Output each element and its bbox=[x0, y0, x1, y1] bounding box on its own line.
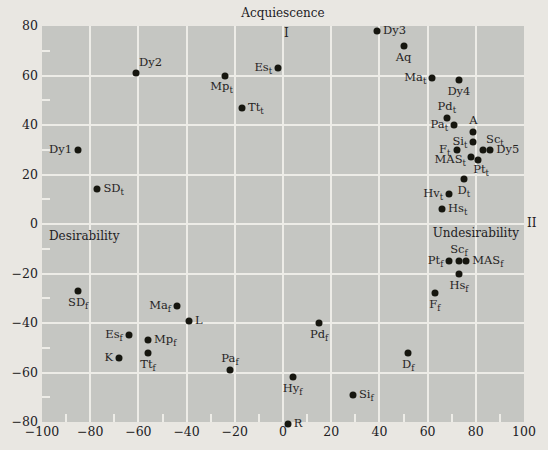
data-point bbox=[116, 354, 123, 361]
data-point bbox=[173, 302, 180, 309]
data-point-label: Est bbox=[254, 62, 272, 74]
y-tick-label: −20 bbox=[12, 267, 38, 280]
data-point bbox=[467, 154, 474, 161]
data-point bbox=[75, 287, 82, 294]
x-tick-label: −60 bbox=[125, 426, 151, 439]
data-point-label-subscript: f bbox=[173, 339, 176, 349]
data-point-label-subscript: t bbox=[453, 104, 456, 114]
data-point-label: Mat bbox=[404, 72, 426, 84]
data-point-label-subscript: f bbox=[325, 333, 328, 343]
y-tick-label: −60 bbox=[12, 366, 38, 379]
data-point-label-subscript: f bbox=[120, 334, 123, 344]
data-point bbox=[239, 104, 246, 111]
x-minor-tick bbox=[162, 414, 164, 422]
data-point-label-subscript: f bbox=[500, 259, 503, 269]
data-point-label: Ff bbox=[429, 299, 440, 311]
data-point-label: Pat bbox=[431, 119, 449, 131]
gridline-horizontal bbox=[42, 372, 524, 374]
data-point bbox=[186, 317, 193, 324]
data-point-label: Ttt bbox=[248, 102, 264, 114]
data-point-label: MASt bbox=[435, 154, 466, 166]
x-minor-tick bbox=[306, 414, 308, 422]
data-point-label-subscript: t bbox=[269, 66, 272, 76]
gridline-horizontal bbox=[42, 273, 524, 275]
region-label-desirability: Desirability bbox=[49, 230, 119, 242]
data-point bbox=[446, 191, 453, 198]
data-point bbox=[431, 290, 438, 297]
data-point bbox=[463, 258, 470, 265]
x-minor-tick bbox=[210, 414, 212, 422]
x-tick-label: 80 bbox=[468, 426, 484, 439]
data-point-label: Ttf bbox=[140, 359, 155, 371]
data-point bbox=[132, 70, 139, 77]
data-point bbox=[455, 270, 462, 277]
data-point bbox=[373, 27, 380, 34]
y-tick-label: 0 bbox=[30, 218, 38, 231]
data-point-label-subscript: t bbox=[423, 76, 426, 86]
data-point-label: Dy3 bbox=[383, 25, 406, 37]
data-point bbox=[75, 146, 82, 153]
y-minor-tick bbox=[42, 248, 50, 250]
gridline-horizontal bbox=[42, 322, 524, 324]
data-point-label: Dy5 bbox=[496, 144, 519, 156]
data-point-label: Pdt bbox=[438, 100, 457, 112]
data-point-label: Esf bbox=[105, 330, 122, 342]
x-tick-label: 100 bbox=[512, 426, 536, 439]
y-tick-label: 60 bbox=[22, 69, 38, 82]
x-minor-tick bbox=[451, 414, 453, 422]
data-point-label-subscript: t bbox=[121, 188, 124, 198]
data-point bbox=[289, 374, 296, 381]
data-point-label: Ptf bbox=[428, 255, 444, 267]
x-tick-label: 0 bbox=[279, 426, 287, 439]
data-point-label-subscript: t bbox=[467, 189, 470, 199]
data-point-label: R bbox=[294, 419, 303, 431]
gridline-horizontal bbox=[42, 174, 524, 176]
x-minor-tick bbox=[113, 414, 115, 422]
x-minor-tick bbox=[499, 414, 501, 422]
data-point bbox=[487, 146, 494, 153]
data-point bbox=[460, 176, 467, 183]
data-point bbox=[145, 337, 152, 344]
data-point bbox=[400, 42, 407, 49]
x-minor-tick bbox=[403, 414, 405, 422]
data-point-label: Scf bbox=[450, 244, 467, 256]
y-minor-tick bbox=[42, 99, 50, 101]
data-point-label-subscript: f bbox=[168, 304, 171, 314]
data-point-label: Dy1 bbox=[49, 144, 72, 156]
y-tick-label: −40 bbox=[12, 317, 38, 330]
quadrant-label-I: I bbox=[284, 27, 289, 39]
data-point-label: Dt bbox=[457, 185, 470, 197]
y-minor-tick bbox=[42, 297, 50, 299]
data-point-label: Paf bbox=[221, 353, 238, 365]
data-point bbox=[125, 332, 132, 339]
data-point-label: SDt bbox=[103, 184, 124, 196]
data-point-label-subscript: t bbox=[445, 123, 448, 133]
data-point-label-subscript: t bbox=[464, 141, 467, 151]
data-point-label: Sif bbox=[359, 389, 374, 401]
data-point-label-subscript: f bbox=[411, 363, 414, 373]
data-point-label-subscript: t bbox=[229, 85, 232, 95]
data-point bbox=[405, 349, 412, 356]
y-minor-tick bbox=[42, 347, 50, 349]
scatter-figure: Acquiescence −100−80−60−40−2002040608010… bbox=[0, 0, 548, 450]
data-point-label: Dy2 bbox=[139, 57, 162, 69]
data-point-label: Hyf bbox=[283, 383, 303, 395]
data-point-label-subscript: f bbox=[85, 301, 88, 311]
data-point bbox=[145, 349, 152, 356]
y-tick-label: 40 bbox=[22, 119, 38, 132]
data-point-label: L bbox=[195, 315, 203, 327]
data-point bbox=[455, 258, 462, 265]
data-point bbox=[451, 122, 458, 129]
x-tick-label: 40 bbox=[371, 426, 387, 439]
data-point bbox=[455, 77, 462, 84]
data-point-label-subscript: f bbox=[370, 393, 373, 403]
x-minor-tick bbox=[258, 414, 260, 422]
data-point bbox=[275, 65, 282, 72]
y-tick-label: 20 bbox=[22, 168, 38, 181]
data-point-label-subscript: f bbox=[465, 248, 468, 258]
region-label-undesirability: Undesirability bbox=[433, 227, 519, 239]
x-tick-label: −40 bbox=[173, 426, 199, 439]
data-point-label-subscript: t bbox=[464, 207, 467, 217]
data-point-label-subscript: t bbox=[260, 106, 263, 116]
data-point-label: Mpt bbox=[210, 81, 233, 93]
